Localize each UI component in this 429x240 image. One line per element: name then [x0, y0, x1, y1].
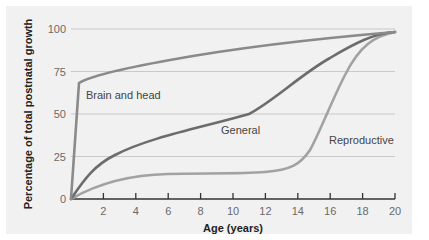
y-tick-labels: 0 25 50 75 100: [48, 23, 66, 205]
x-tick-10: 10: [227, 205, 239, 217]
growth-chart: 0 25 50 75 100 2 4 6 8 10 12 14 16 18 20…: [0, 0, 429, 240]
y-tick-0: 0: [60, 193, 66, 205]
y-tick-75: 75: [54, 66, 66, 78]
x-axis-title: Age (years): [203, 222, 263, 234]
y-tick-50: 50: [54, 108, 66, 120]
series-reproductive-line: [71, 32, 395, 199]
x-tick-14: 14: [292, 205, 304, 217]
y-tick-25: 25: [54, 151, 66, 163]
label-general: General: [221, 124, 260, 136]
x-tick-2: 2: [100, 205, 106, 217]
x-tick-12: 12: [259, 205, 271, 217]
y-axis-title: Percentage of total postnatal growth: [22, 18, 34, 209]
x-tick-20: 20: [389, 205, 401, 217]
x-tick-6: 6: [165, 205, 171, 217]
label-brain-and-head: Brain and head: [86, 89, 161, 101]
x-tick-18: 18: [356, 205, 368, 217]
x-axis: [71, 193, 395, 199]
x-tick-labels: 2 4 6 8 10 12 14 16 18 20: [100, 205, 401, 217]
x-tick-4: 4: [133, 205, 139, 217]
x-tick-16: 16: [324, 205, 336, 217]
y-tick-100: 100: [48, 23, 66, 35]
x-tick-8: 8: [198, 205, 204, 217]
label-reproductive: Reproductive: [329, 134, 394, 146]
